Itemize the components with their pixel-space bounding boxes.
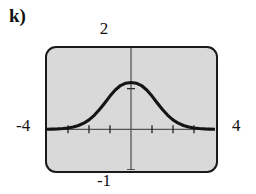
y-max-label: 2 bbox=[0, 20, 232, 38]
plot-svg bbox=[47, 48, 215, 170]
figure-container: k) 2 -1 -4 4 bbox=[0, 0, 256, 194]
x-max-label: 4 bbox=[232, 117, 241, 135]
calculator-screen bbox=[45, 46, 218, 173]
x-min-label: -4 bbox=[16, 117, 30, 135]
y-min-label: -1 bbox=[0, 172, 232, 190]
